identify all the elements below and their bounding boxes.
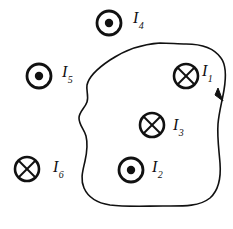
current-label-I2-sub: 2 (158, 169, 163, 180)
current-label-I3: I3 (173, 117, 183, 136)
current-label-I5-base: I (62, 63, 67, 80)
current-label-I5-sub: 5 (68, 74, 73, 85)
current-label-I6: I6 (53, 159, 63, 178)
current-label-I6-base: I (53, 158, 58, 175)
current-label-I4-sub: 4 (139, 20, 144, 31)
figure-canvas: I1 I2 I3 I4 I5 I6 (0, 0, 233, 229)
current-label-I1-base: I (202, 62, 207, 79)
current-label-I3-sub: 3 (179, 127, 184, 138)
current-label-I6-sub: 6 (59, 169, 64, 180)
current-label-I2: I2 (152, 159, 162, 178)
current-symbol-I6 (15, 157, 39, 181)
current-label-I4-base: I (133, 9, 138, 26)
current-label-I1: I1 (202, 63, 212, 82)
current-label-I3-base: I (173, 116, 178, 133)
figure-drawing (0, 0, 233, 229)
current-symbol-I1 (174, 64, 198, 88)
current-symbol-I5 (27, 64, 51, 88)
current-label-I4: I4 (133, 10, 143, 29)
current-symbol-I2 (119, 158, 143, 182)
current-symbol-I4 (97, 11, 121, 35)
current-label-I1-sub: 1 (208, 73, 213, 84)
loop-direction-arrow-icon (215, 88, 223, 101)
current-label-I2-base: I (152, 158, 157, 175)
current-symbol-I3 (140, 113, 164, 137)
current-label-I5: I5 (62, 64, 72, 83)
